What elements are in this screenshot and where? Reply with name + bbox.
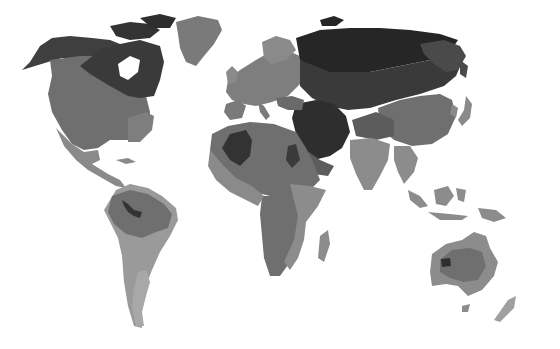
world-map bbox=[0, 0, 560, 349]
